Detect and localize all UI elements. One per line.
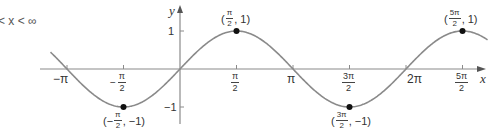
point-label-neg-pi-over-2: (− π 2 , −1) <box>103 111 145 130</box>
numerator: 3π <box>336 111 348 121</box>
x-tick-label-3pi-over-2: 3π 2 <box>342 72 355 93</box>
fraction: 3π 2 <box>336 111 348 130</box>
numerator: π <box>226 9 234 19</box>
point-label-5pi-over-2: ( 5π 2 , 1) <box>444 9 478 28</box>
x-tick-label-neg-pi: −π <box>53 73 68 85</box>
sign: − <box>110 77 116 88</box>
denominator: 2 <box>116 121 120 130</box>
point-label-pi-over-2: ( π 2 , 1) <box>221 9 250 28</box>
coord-rest: , −1) <box>349 115 371 127</box>
x-axis-label-text: x <box>480 72 486 85</box>
numerator: π <box>114 111 122 121</box>
open-paren: ( <box>444 13 448 25</box>
fraction: π 2 <box>226 9 234 28</box>
coord-rest: , 1) <box>234 13 250 25</box>
denominator: 2 <box>459 83 464 93</box>
x-range-caption: < x < ∞ <box>0 15 37 27</box>
numerator: π <box>231 72 239 83</box>
denominator: 2 <box>119 83 124 93</box>
x-tick-label-5pi-over-2: 5π 2 <box>455 72 468 93</box>
point-max-pi-over-2 <box>234 28 240 34</box>
fraction: 5π 2 <box>449 9 461 28</box>
denominator: 2 <box>339 121 343 130</box>
coord-rest: , −1) <box>123 115 145 127</box>
y-tick-label-1: 1 <box>168 26 174 37</box>
fraction: π 2 <box>114 111 122 130</box>
denominator: 2 <box>233 83 238 93</box>
open-paren: ( <box>331 115 335 127</box>
point-min-neg-pi-over-2 <box>121 104 127 110</box>
caption-text: < x < ∞ <box>0 14 37 28</box>
numerator: π <box>118 72 126 83</box>
y-axis-label-text: y <box>169 4 175 17</box>
x-tick-label-pi-over-2: π 2 <box>231 72 239 93</box>
denominator: 2 <box>227 19 231 28</box>
point-min-3pi-over-2 <box>347 104 353 110</box>
open-paren: (− <box>103 115 113 127</box>
coord-rest: , 1) <box>462 13 478 25</box>
sine-graph-figure: < x < ∞ x y x 1 −1 −π − π 2 π 2 π 3π 2 2… <box>0 0 489 130</box>
x-tick-label-pi: π <box>287 73 295 85</box>
point-label-3pi-over-2: ( 3π 2 , −1) <box>331 111 371 130</box>
numerator: 5π <box>455 72 468 83</box>
numerator: 3π <box>342 72 355 83</box>
x-tick-label-2pi: 2π <box>407 73 422 85</box>
y-tick-label-neg1: −1 <box>164 102 177 113</box>
fraction: π 2 <box>118 72 126 93</box>
numerator: 5π <box>449 9 461 19</box>
x-tick-label-neg-pi-over-2: − π 2 <box>110 72 126 93</box>
denominator: 2 <box>346 83 351 93</box>
y-axis-arrow-icon <box>177 5 183 13</box>
point-max-5pi-over-2 <box>460 28 466 34</box>
denominator: 2 <box>452 19 456 28</box>
open-paren: ( <box>221 13 225 25</box>
